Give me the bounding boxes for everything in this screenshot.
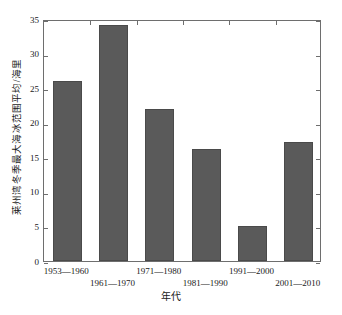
y-tick-mark (44, 21, 48, 22)
bar-chart-figure: 莱州湾冬季最大海冰范围平均/海里 年代 051015202530351953—1… (0, 0, 342, 315)
x-tick-mark-top (229, 21, 230, 25)
bar (192, 149, 221, 261)
x-tick-label: 1971—1980 (124, 266, 194, 277)
y-tick-mark (44, 90, 48, 91)
y-tick-label: 30 (9, 50, 39, 59)
y-tick-mark (44, 263, 48, 264)
x-tick-mark-top (137, 21, 138, 25)
y-tick-label: 20 (9, 119, 39, 128)
y-tick-mark (44, 159, 48, 160)
y-tick-mark (44, 56, 48, 57)
plot-area (43, 20, 321, 262)
y-tick-mark-right (316, 194, 320, 195)
bar (53, 81, 82, 261)
y-tick-mark-right (316, 228, 320, 229)
y-tick-mark (44, 228, 48, 229)
bar (238, 226, 267, 261)
y-tick-mark-right (316, 263, 320, 264)
y-tick-mark-right (316, 159, 320, 160)
y-tick-label: 10 (9, 188, 39, 197)
y-tick-label: 5 (9, 223, 39, 232)
y-tick-label: 15 (9, 154, 39, 163)
y-tick-mark (44, 125, 48, 126)
y-tick-mark-right (316, 90, 320, 91)
x-tick-mark-top (276, 21, 277, 25)
bar (99, 25, 128, 261)
bar (145, 109, 174, 261)
y-tick-mark-right (316, 56, 320, 57)
x-tick-label: 1953—1960 (31, 266, 101, 277)
y-tick-mark (44, 194, 48, 195)
y-tick-label: 25 (9, 85, 39, 94)
x-axis-title: 年代 (0, 291, 342, 303)
x-tick-mark-top (90, 21, 91, 25)
x-tick-label: 1991—2000 (217, 266, 287, 277)
x-tick-label: 2001—2010 (263, 278, 333, 289)
y-tick-mark-right (316, 21, 320, 22)
x-tick-label: 1981—1990 (170, 278, 240, 289)
y-tick-mark-right (316, 125, 320, 126)
x-tick-mark-top (183, 21, 184, 25)
y-tick-label: 35 (9, 16, 39, 25)
x-tick-label: 1961—1970 (78, 278, 148, 289)
bar (284, 142, 313, 261)
